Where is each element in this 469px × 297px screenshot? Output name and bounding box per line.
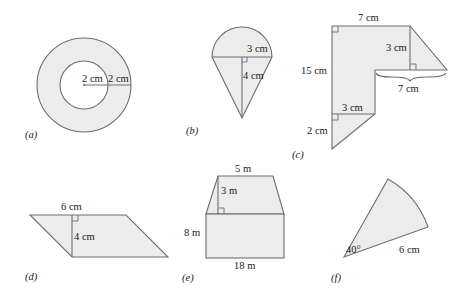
- base-label: 18 m: [234, 260, 255, 271]
- caption-d: (d): [25, 271, 38, 283]
- figure-e-house: 5 m 3 m 8 m 18 m (e): [182, 163, 284, 284]
- base-label: 6 cm: [61, 201, 82, 212]
- brace-label: 7 cm: [398, 83, 419, 94]
- height-label: 4 cm: [243, 70, 264, 81]
- radius-label: 3 cm: [247, 43, 268, 54]
- height-label: 4 cm: [74, 231, 95, 242]
- triangle-height-label: 3 cm: [386, 42, 407, 53]
- bottom-triangle-label: 2 cm: [307, 125, 328, 136]
- figure-c-composite: 7 cm 15 cm 3 cm 7 cm 3 cm 2 cm (c): [292, 12, 447, 161]
- parallelogram-outline: [30, 215, 168, 257]
- rect-height-label: 8 m: [184, 227, 200, 238]
- caption-f: (f): [331, 272, 341, 284]
- top-label: 5 m: [235, 163, 251, 174]
- angle-label: 40°: [346, 244, 361, 255]
- bottom-rect-width-label: 3 cm: [342, 102, 363, 113]
- radius-label: 6 cm: [399, 244, 420, 255]
- top-label: 7 cm: [358, 12, 379, 23]
- brace-icon: [376, 73, 446, 81]
- ring-width-label: 2 cm: [108, 73, 129, 84]
- left-label: 15 cm: [301, 65, 327, 76]
- figure-d-parallelogram: 6 cm 4 cm (d): [25, 201, 168, 283]
- figure-b-cone: 3 cm 4 cm (b): [186, 27, 272, 137]
- caption-a: (a): [25, 129, 38, 141]
- caption-c: (c): [292, 149, 304, 161]
- caption-b: (b): [186, 125, 199, 137]
- caption-e: (e): [182, 272, 194, 284]
- figure-f-sector: 40° 6 cm (f): [331, 179, 428, 284]
- rectangle-outline: [206, 214, 284, 258]
- figure-a-annulus: 2 cm 2 cm (a): [25, 38, 131, 141]
- center-point: [83, 84, 85, 86]
- geometry-figures: 2 cm 2 cm (a) 3 cm 4 cm (b) 7 cm 15 cm 3…: [0, 0, 469, 297]
- trapezoid-height-label: 3 m: [221, 185, 237, 196]
- inner-radius-label: 2 cm: [82, 73, 103, 84]
